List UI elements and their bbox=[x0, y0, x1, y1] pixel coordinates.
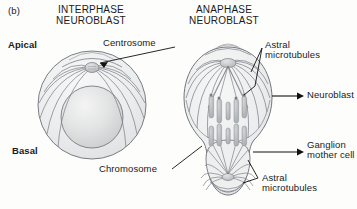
label-centrosome: Centrosome bbox=[103, 38, 156, 49]
label-ganglion-line2: mother cell bbox=[307, 150, 355, 161]
label-neuroblast: Neuroblast bbox=[307, 90, 354, 101]
ganglion-arrow bbox=[253, 149, 304, 156]
title-interphase-line1: INTERPHASE bbox=[36, 4, 146, 16]
chromosome-leader-line bbox=[172, 146, 202, 169]
label-apical: Apical bbox=[8, 40, 37, 51]
label-basal: Basal bbox=[12, 146, 38, 157]
interphase-neuroblast-cell bbox=[38, 47, 175, 159]
label-chromosome: Chromosome bbox=[99, 164, 157, 175]
neuroblast-arrow bbox=[272, 93, 304, 100]
centrosome bbox=[85, 63, 99, 73]
label-astral-top-line2: microtubules bbox=[265, 50, 320, 61]
label-astral-bottom-line2: microtubules bbox=[262, 183, 317, 194]
figure-panel-b: (b) INTERPHASE NEUROBLAST ANAPHASE NEURO… bbox=[0, 0, 357, 209]
title-anaphase-line1: ANAPHASE bbox=[168, 4, 280, 16]
title-interphase-line2: NEUROBLAST bbox=[36, 15, 146, 27]
title-anaphase-line2: NEUROBLAST bbox=[168, 15, 280, 27]
cell-diagram-svg bbox=[0, 0, 357, 209]
spindle-pole-basal bbox=[222, 174, 234, 181]
panel-label: (b) bbox=[8, 6, 20, 17]
